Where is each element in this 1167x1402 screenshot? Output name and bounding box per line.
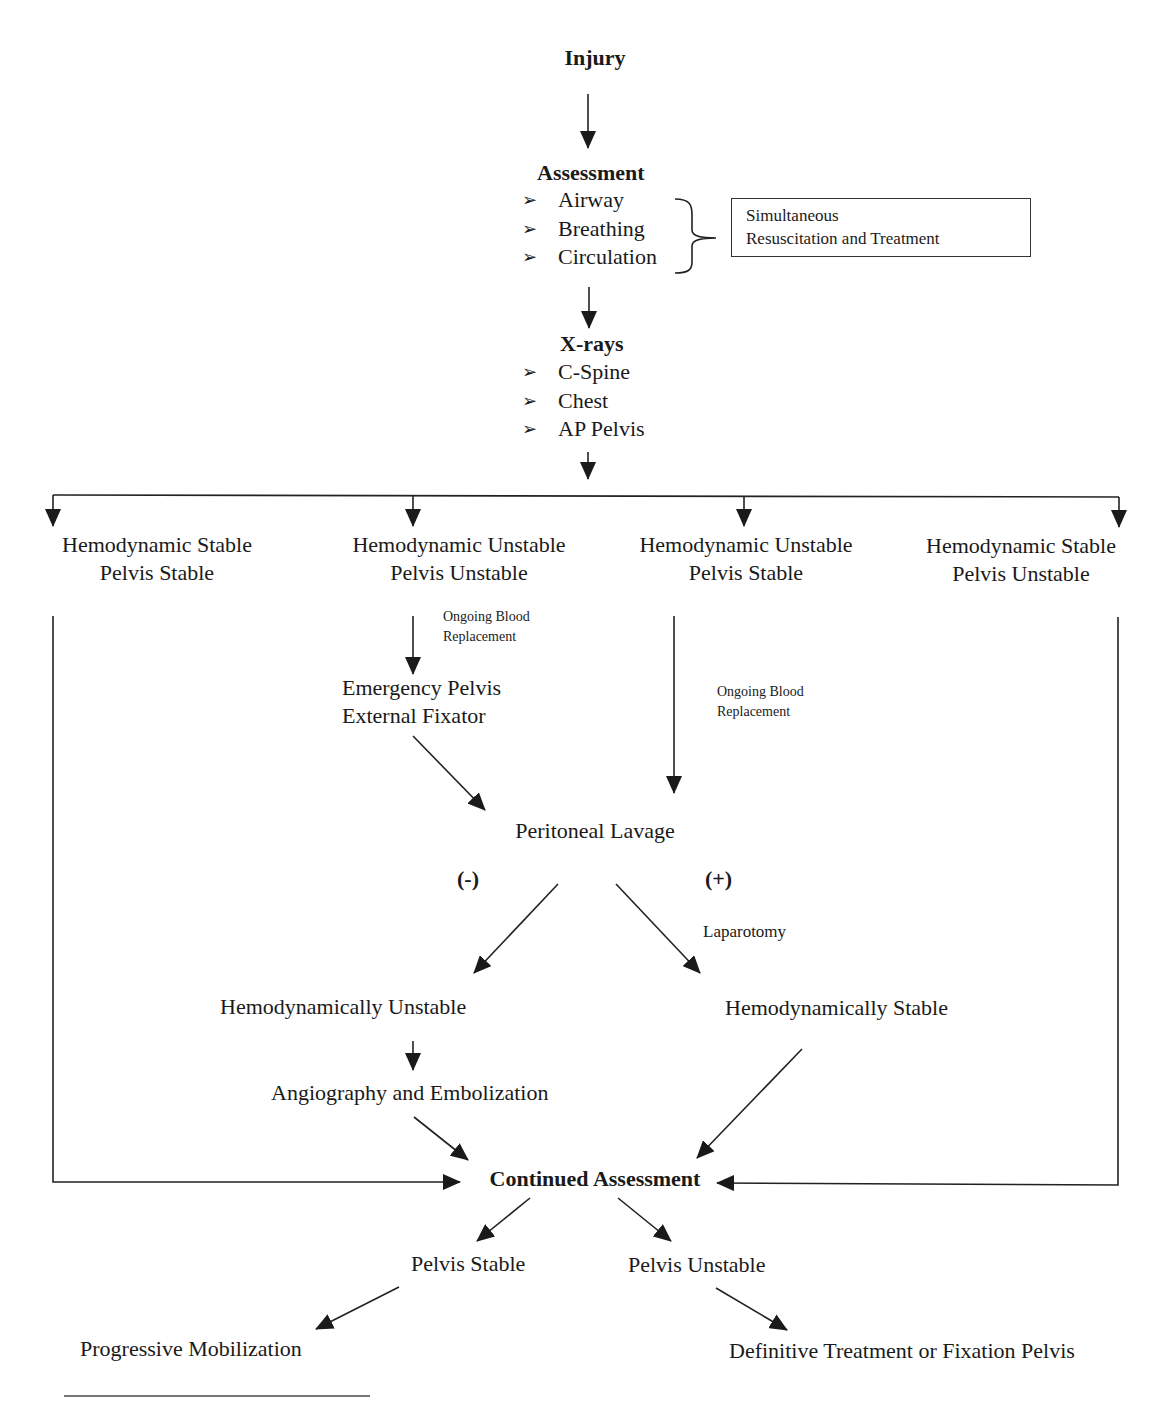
node-pelvis-unstable: Pelvis Unstable (628, 1251, 766, 1279)
branch-hemo-unstable-pelvis-unstable: Hemodynamic Unstable Pelvis Unstable (352, 531, 565, 587)
bullet-arrow-icon: ➢ (522, 186, 558, 215)
node-hemodynamically-stable: Hemodynamically Stable (725, 994, 948, 1022)
bullet-arrow-icon: ➢ (522, 387, 558, 416)
arrow-stable-to-continued (697, 1049, 802, 1158)
arrow-negative (474, 884, 558, 973)
node-assessment-heading: Assessment (537, 159, 645, 187)
node-progressive-mobilization: Progressive Mobilization (80, 1335, 302, 1363)
xray-item: ➢ C-Spine (522, 358, 645, 387)
node-hemodynamically-unstable: Hemodynamically Unstable (220, 993, 466, 1021)
edge-label-blood-replacement-2: Ongoing Blood Replacement (717, 682, 804, 722)
xray-item: ➢ AP Pelvis (522, 415, 645, 444)
node-injury: Injury (564, 44, 625, 72)
flowchart-canvas: Injury Assessment ➢ Airway ➢ Breathing ➢… (0, 0, 1167, 1402)
node-pelvis-stable: Pelvis Stable (411, 1250, 525, 1278)
branch-bar (53, 495, 1119, 497)
bullet-arrow-icon: ➢ (522, 215, 558, 244)
arrow-continued-to-pelvis-stable (477, 1198, 530, 1241)
arrow-angio-to-continued (414, 1117, 468, 1160)
assessment-list: ➢ Airway ➢ Breathing ➢ Circulation (522, 186, 657, 272)
arrow-continued-to-pelvis-unstable (618, 1198, 671, 1241)
edge-label-laparotomy: Laparotomy (703, 918, 786, 946)
node-definitive-treatment: Definitive Treatment or Fixation Pelvis (729, 1337, 1075, 1365)
node-continued-assessment: Continued Assessment (490, 1165, 701, 1193)
edge-label-blood-replacement-1: Ongoing Blood Replacement (443, 607, 530, 647)
edge-label-positive: (+) (705, 865, 732, 893)
assessment-item: ➢ Breathing (522, 215, 657, 244)
arrow-to-definitive (716, 1288, 787, 1330)
branch-hemo-unstable-pelvis-stable: Hemodynamic Unstable Pelvis Stable (639, 531, 852, 587)
arrow-positive (616, 884, 700, 973)
node-emergency-fixator: Emergency Pelvis External Fixator (342, 674, 501, 730)
branch-hemo-stable-pelvis-unstable: Hemodynamic Stable Pelvis Unstable (926, 532, 1116, 588)
arrow-fixator-to-lavage (413, 736, 485, 810)
edge-label-negative: (-) (457, 865, 479, 893)
brace-icon (675, 199, 716, 273)
bullet-arrow-icon: ➢ (522, 415, 558, 444)
assessment-item: ➢ Circulation (522, 243, 657, 272)
xrays-list: ➢ C-Spine ➢ Chest ➢ AP Pelvis (522, 358, 645, 444)
footnote-divider (64, 1395, 370, 1397)
arrow-to-mobilization (316, 1287, 399, 1329)
assessment-item: ➢ Airway (522, 186, 657, 215)
xray-item: ➢ Chest (522, 387, 645, 416)
node-angiography-embolization: Angiography and Embolization (271, 1079, 548, 1107)
node-xrays-heading: X-rays (560, 330, 624, 358)
resuscitation-note-box: Simultaneous Resuscitation and Treatment (731, 198, 1031, 257)
bullet-arrow-icon: ➢ (522, 243, 558, 272)
bullet-arrow-icon: ➢ (522, 358, 558, 387)
node-peritoneal-lavage: Peritoneal Lavage (515, 817, 674, 845)
branch-hemo-stable-pelvis-stable: Hemodynamic Stable Pelvis Stable (62, 531, 252, 587)
